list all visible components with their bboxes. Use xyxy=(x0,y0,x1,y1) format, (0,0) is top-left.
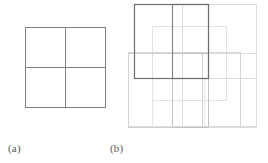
square-outer-right-light xyxy=(183,5,257,79)
square-bottom-center-mid xyxy=(173,54,209,128)
square-top-left-dark xyxy=(135,5,209,79)
panel-b-canvas xyxy=(0,0,268,163)
panel-b xyxy=(0,0,268,163)
square-bottom-right-light xyxy=(183,54,257,128)
caption-a: (a) xyxy=(8,142,21,154)
square-middle-band-light xyxy=(129,53,241,127)
square-lower-inner-light xyxy=(153,79,205,127)
square-center-inner-light xyxy=(153,27,227,101)
square-bottom-left-light xyxy=(129,54,203,128)
figure-container: (a) (b) xyxy=(0,0,268,163)
caption-b: (b) xyxy=(110,142,123,154)
square-top-center-dark xyxy=(173,5,209,79)
